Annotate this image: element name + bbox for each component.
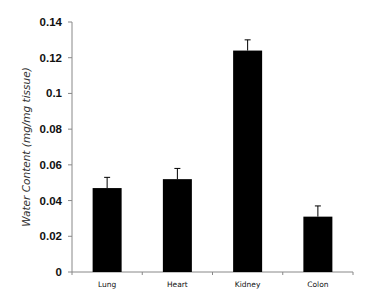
bar-lung (93, 177, 122, 272)
x-category-label: Colon (307, 280, 328, 289)
y-axis: 00.020.040.060.080.10.120.14 (40, 16, 72, 278)
bar-kidney (233, 40, 262, 272)
y-tick-label: 0.14 (40, 16, 63, 28)
x-category-label: Lung (98, 280, 117, 289)
y-tick-label: 0.08 (40, 123, 63, 135)
y-tick-label: 0 (56, 266, 62, 278)
y-tick-label: 0.12 (40, 52, 62, 64)
bar-heart (163, 168, 192, 272)
x-category-label: Kidney (235, 280, 261, 289)
y-tick-label: 0.02 (40, 230, 62, 242)
y-axis-label: Water Content (mg/mg tissue) (20, 67, 32, 227)
x-category-label: Heart (167, 280, 188, 289)
bar-colon (303, 206, 332, 272)
y-tick-label: 0.1 (46, 87, 63, 99)
y-tick-label: 0.06 (40, 159, 62, 171)
x-axis: LungHeartKidneyColon (72, 272, 353, 289)
y-tick-label: 0.04 (40, 195, 63, 207)
bar-chart: Water Content (mg/mg tissue) 00.020.040.… (0, 0, 372, 302)
bars (93, 40, 333, 272)
